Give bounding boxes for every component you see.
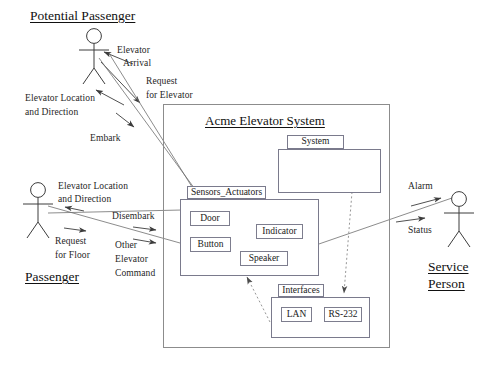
flow-label-embark: Embark xyxy=(90,133,121,144)
flow-label-elevator-location-mid-line1: Elevator Location xyxy=(58,181,128,192)
package-tab-interfaces: Interfaces xyxy=(278,284,324,297)
flow-label-elevator-arrival-line1: Elevator xyxy=(117,45,150,56)
class-box-button: Button xyxy=(190,237,231,252)
flow-elevator-location-direction-top xyxy=(96,90,124,105)
package-tab-sensors-actuators: Sensors_Actuators xyxy=(187,186,266,199)
flow-disembark xyxy=(133,227,156,230)
package-tab-system: System xyxy=(287,135,344,149)
flow-elevator-location-direction-mid xyxy=(65,207,84,211)
use-case-diagram-canvas: Acme Elevator System System Sensors_Actu… xyxy=(0,0,499,365)
actor-service-person-figure xyxy=(444,192,474,247)
class-box-door: Door xyxy=(190,211,230,226)
flow-label-elevator-location-top-line2: and Direction xyxy=(25,107,78,118)
flow-label-status: Status xyxy=(408,225,432,236)
flow-label-other-elevator-command-line2: Elevator xyxy=(115,254,148,265)
flow-label-elevator-location-top-line1: Elevator Location xyxy=(25,93,95,104)
actor-label-potential-passenger: Potential Passenger xyxy=(30,8,135,23)
flow-label-request-for-floor-line1: Request xyxy=(55,236,86,247)
flow-label-alarm: Alarm xyxy=(408,181,433,192)
actor-label-service-person-line2: Person xyxy=(428,276,465,291)
flow-label-disembark: Disembark xyxy=(112,211,155,222)
flow-embark xyxy=(116,113,134,127)
flow-label-request-for-elevator-line1: Request xyxy=(146,76,177,87)
flow-request-for-floor xyxy=(64,228,86,231)
flow-label-other-elevator-command-line3: Command xyxy=(115,268,155,279)
flow-alarm xyxy=(411,198,441,206)
class-box-indicator: Indicator xyxy=(256,224,303,239)
package-body-system xyxy=(278,149,381,193)
flow-status xyxy=(396,218,425,222)
actor-label-passenger: Passenger xyxy=(25,269,79,284)
flow-label-other-elevator-command-line1: Other xyxy=(115,240,137,251)
flow-label-request-for-floor-line2: for Floor xyxy=(55,250,90,261)
actor-potential-passenger-figure xyxy=(79,29,109,84)
actor-passenger-figure xyxy=(23,183,53,238)
flow-label-elevator-location-mid-line2: and Direction xyxy=(58,194,111,205)
class-box-rs232: RS-232 xyxy=(324,307,362,322)
flow-label-elevator-arrival-line2: Arrival xyxy=(123,58,151,69)
flow-label-request-for-elevator-line2: for Elevator xyxy=(146,90,193,101)
actor-label-service-person-line1: Service xyxy=(428,259,468,274)
class-box-speaker: Speaker xyxy=(240,251,288,266)
class-box-lan: LAN xyxy=(281,307,312,322)
